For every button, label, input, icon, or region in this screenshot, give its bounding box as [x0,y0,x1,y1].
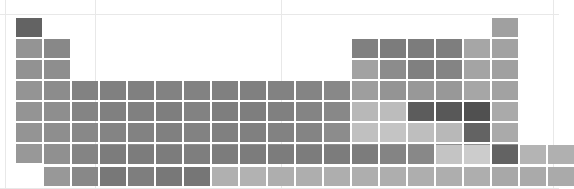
heatmap-cell-actinide [352,167,378,186]
heatmap-cell-element [16,60,42,79]
heatmap-cell-element [100,81,126,100]
heatmap-cell-element [380,39,406,58]
heatmap-cell-element [16,144,42,163]
heatmap-cell-element [380,102,406,121]
heatmap-cell-element [436,60,462,79]
heatmap-cell-actinide [436,167,462,186]
heatmap-cell-lanthanide [464,145,490,164]
heatmap-cell-element [436,39,462,58]
heatmap-cell-actinide [520,167,546,186]
heatmap-cell-element [72,102,98,121]
heatmap-cell-element [100,123,126,142]
heatmap-cell-element [296,102,322,121]
heatmap-cell-element [72,123,98,142]
heatmap-cell-element [408,81,434,100]
heatmap-cell-lanthanide [156,145,182,164]
heatmap-cell-lanthanide [548,145,574,164]
heatmap-cell-element [16,18,42,37]
heatmap-cell-element [16,39,42,58]
heatmap-cell-element [184,102,210,121]
gridline-vertical [5,0,6,189]
heatmap-cell-element [44,123,70,142]
heatmap-cell-lanthanide [380,145,406,164]
heatmap-cell-element [464,39,490,58]
heatmap-cell-element [100,102,126,121]
heatmap-cell-element [492,81,518,100]
heatmap-cell-lanthanide [212,145,238,164]
heatmap-cell-element [408,102,434,121]
heatmap-cell-actinide [380,167,406,186]
heatmap-cell-lanthanide [324,145,350,164]
heatmap-cell-element [72,81,98,100]
heatmap-cell-element [240,81,266,100]
heatmap-cell-element [16,81,42,100]
heatmap-cell-element [352,123,378,142]
heatmap-cell-actinide [324,167,350,186]
heatmap-cell-lanthanide [408,145,434,164]
heatmap-cell-element [380,81,406,100]
heatmap-cell-element [352,39,378,58]
heatmap-cell-element [492,102,518,121]
heatmap-cell-element [268,102,294,121]
heatmap-cell-element [352,102,378,121]
heatmap-cell-actinide [492,167,518,186]
heatmap-cell-lanthanide [436,145,462,164]
heatmap-cell-element [408,123,434,142]
heatmap-cell-element [380,123,406,142]
heatmap-cell-element [44,102,70,121]
heatmap-cell-element [156,123,182,142]
heatmap-cell-actinide [548,167,574,186]
heatmap-cell-element [16,102,42,121]
heatmap-cell-lanthanide [352,145,378,164]
heatmap-cell-lanthanide [128,145,154,164]
heatmap-cell-element [240,102,266,121]
heatmap-cell-lanthanide [100,145,126,164]
heatmap-cell-lanthanide [520,145,546,164]
heatmap-cell-lanthanide [184,145,210,164]
heatmap-cell-element [436,81,462,100]
heatmap-cell-actinide [408,167,434,186]
heatmap-cell-actinide [128,167,154,186]
heatmap-cell-element [408,60,434,79]
heatmap-cell-element [212,123,238,142]
heatmap-cell-actinide [156,167,182,186]
heatmap-cell-element [184,123,210,142]
heatmap-cell-element [128,102,154,121]
heatmap-cell-lanthanide [44,145,70,164]
heatmap-cell-element [464,102,490,121]
heatmap-cell-element [268,123,294,142]
heatmap-cell-element [352,60,378,79]
heatmap-cell-element [324,81,350,100]
heatmap-cell-actinide [464,167,490,186]
heatmap-cell-element [240,123,266,142]
heatmap-cell-element [436,123,462,142]
heatmap-cell-element [128,123,154,142]
heatmap-cell-element [492,39,518,58]
heatmap-cell-element [324,123,350,142]
gridline-horizontal [0,188,559,189]
heatmap-cell-element [128,81,154,100]
heatmap-cell-actinide [296,167,322,186]
heatmap-grid [16,18,556,188]
heatmap-cell-actinide [44,167,70,186]
heatmap-cell-element [324,102,350,121]
heatmap-cell-element [492,60,518,79]
heatmap-cell-actinide [212,167,238,186]
heatmap-cell-element [184,81,210,100]
heatmap-cell-element [268,81,294,100]
heatmap-cell-lanthanide [240,145,266,164]
heatmap-cell-actinide [184,167,210,186]
gridline-horizontal [0,14,559,15]
heatmap-cell-element [436,102,462,121]
heatmap-cell-element [212,81,238,100]
heatmap-cell-element [380,60,406,79]
heatmap-cell-element [296,123,322,142]
heatmap-cell-actinide [268,167,294,186]
heatmap-cell-element [16,123,42,142]
heatmap-cell-lanthanide [72,145,98,164]
heatmap-cell-element [464,123,490,142]
heatmap-cell-element [44,81,70,100]
heatmap-cell-element [464,60,490,79]
heatmap-cell-lanthanide [296,145,322,164]
